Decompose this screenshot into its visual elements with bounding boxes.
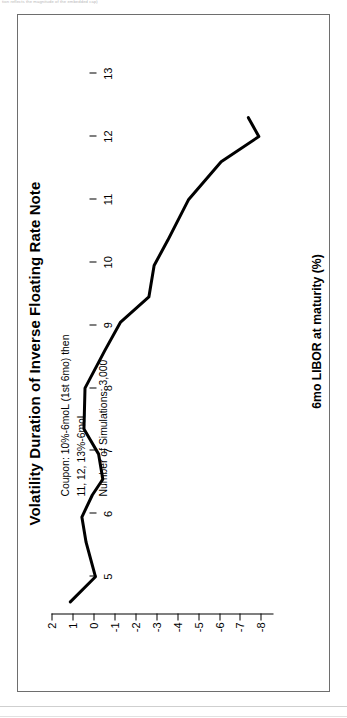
- y-axis-tick-label: -6: [213, 622, 225, 632]
- y-axis-tick-label: -2: [129, 622, 141, 632]
- page-rule-bottom: [0, 716, 347, 717]
- rotated-chart-container: Volatility Duration of Inverse Floating …: [17, 14, 330, 692]
- y-axis-tick-label: -3: [150, 622, 162, 632]
- y-axis-tick-label: 1: [66, 622, 78, 628]
- y-axis-tick-label: -1: [108, 622, 120, 632]
- x-axis-label: 6mo LIBOR at maturity (%): [309, 48, 323, 614]
- page-rule-top: [0, 706, 347, 707]
- series-line-volatility-duration: [51, 48, 273, 614]
- data-line: [70, 117, 258, 601]
- chart-canvas: Volatility Duration of Inverse Floating …: [17, 14, 330, 692]
- plot-area: 5678910111213 210-1-2-3-4-5-6-7-8: [51, 48, 273, 614]
- y-axis-tick-label: -8: [254, 622, 266, 632]
- figure-page: tion reflects the magnitude of the embed…: [0, 0, 347, 718]
- y-axis-tick-label: -7: [233, 622, 245, 632]
- y-axis-tick-label: 0: [87, 622, 99, 628]
- y-axis-tick-label: -5: [192, 622, 204, 632]
- y-axis-tick-label: -4: [171, 622, 183, 632]
- chart-title: Volatility Duration of Inverse Floating …: [25, 14, 42, 692]
- y-axis-tick-label: 2: [45, 622, 57, 628]
- scan-edge-text: tion reflects the magnitude of the embed…: [2, 0, 98, 4]
